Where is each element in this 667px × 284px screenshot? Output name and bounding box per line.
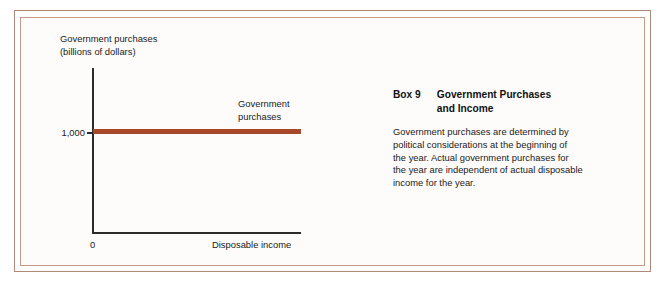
series-label-government-purchases: Government purchases (238, 98, 290, 123)
y-axis-tick-label: 1,000 (54, 127, 85, 138)
box-heading: Box 9 Government Purchases and Income (393, 88, 608, 116)
figure-root: Government purchases (billions of dollar… (0, 0, 667, 284)
x-axis-line (92, 232, 301, 234)
box-number: Box 9 (393, 88, 421, 102)
y-axis-line (92, 68, 94, 234)
box-body-text: Government purchases are determined by p… (393, 126, 608, 190)
series-line-government-purchases (93, 129, 301, 134)
x-axis-title: Disposable income (212, 239, 291, 250)
box-title: Government Purchases and Income (437, 88, 608, 116)
chart-area: Government purchases (billions of dollar… (0, 0, 340, 284)
x-axis-origin-label: 0 (90, 239, 95, 250)
box-panel: Box 9 Government Purchases and Income Go… (393, 88, 608, 190)
y-axis-title: Government purchases (billions of dollar… (60, 33, 157, 58)
